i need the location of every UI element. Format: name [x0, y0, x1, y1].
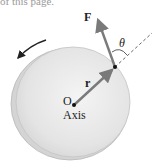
force-label: F: [84, 11, 91, 23]
axis-point: [72, 103, 76, 107]
axis-label: Axis: [63, 109, 86, 121]
angle-label: θ: [119, 37, 125, 49]
torque-diagram: [0, 0, 160, 168]
radius-label: r: [85, 77, 90, 89]
force-application-point: [113, 65, 117, 69]
origin-label: O: [63, 95, 72, 107]
angle-arc: [112, 50, 127, 55]
